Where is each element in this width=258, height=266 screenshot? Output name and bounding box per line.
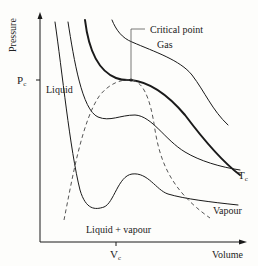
isotherm-high: [112, 20, 228, 125]
x-axis-arrow-icon: [239, 240, 247, 245]
diagram-svg: Critical point Pressure Volume Pc Vc Liq…: [0, 0, 258, 266]
vc-sub: c: [118, 254, 121, 262]
isotherms: [55, 20, 240, 208]
critical-point-leader: [131, 29, 145, 80]
pc-sub: c: [23, 80, 26, 88]
vapour-label: Vapour: [213, 205, 243, 216]
liquid-label: Liquid: [46, 84, 73, 95]
vc-label: Vc: [110, 248, 121, 262]
gas-label: Gas: [157, 39, 173, 50]
tc-sub: c: [245, 175, 248, 183]
critical-point: Critical point: [129, 24, 203, 82]
liquid-vapour-label: Liquid + vapour: [86, 224, 152, 235]
pc-label: Pc: [17, 74, 26, 88]
isotherm-mid: [68, 22, 240, 170]
pv-diagram: Critical point Pressure Volume Pc Vc Liq…: [0, 0, 258, 266]
tc-label: Tc: [238, 169, 248, 183]
vc-main: V: [110, 248, 118, 260]
x-axis-label: Volume: [212, 249, 243, 260]
critical-point-label: Critical point: [150, 24, 203, 35]
y-axis-arrow-icon: [38, 12, 43, 19]
isotherm-low: [55, 22, 238, 208]
y-axis-label: Pressure: [7, 18, 18, 52]
